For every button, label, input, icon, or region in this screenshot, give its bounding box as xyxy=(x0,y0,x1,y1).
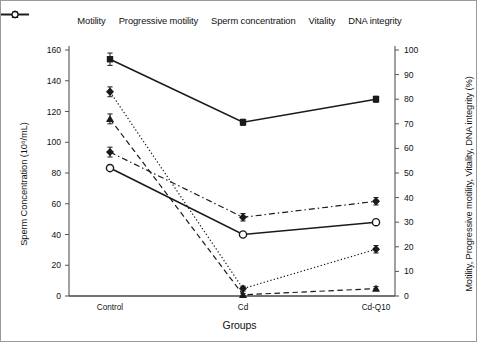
x-axis-title: Groups xyxy=(1,319,477,331)
y-right-tick-label: 30 xyxy=(404,217,414,227)
y-left-tick-label: 80 xyxy=(1,168,61,178)
x-tick-label-cd: Cd xyxy=(198,303,288,312)
legend-label-vitality: Vitality xyxy=(309,15,336,26)
y-left-tick-label: 100 xyxy=(1,137,61,147)
y-right-tick-label: 80 xyxy=(404,94,414,104)
y-right-tick-label: 60 xyxy=(404,143,414,153)
legend-label-motility: Motility xyxy=(77,15,105,26)
legend-item-dna-integrity: DNA integrity xyxy=(348,15,401,26)
data-point-progressive-motility xyxy=(106,115,114,122)
chart-legend: Motility Progressive motility Sperm conc… xyxy=(1,9,477,31)
legend-item-progressive-motility: Progressive motility xyxy=(119,15,198,26)
data-point-dna-integrity xyxy=(239,231,246,238)
y-right-tick-label: 0 xyxy=(404,291,409,301)
y-right-tick-label: 70 xyxy=(404,119,414,129)
data-point-sperm-concentration xyxy=(240,119,246,125)
data-point-dna-integrity xyxy=(372,219,379,226)
legend-item-vitality: Vitality xyxy=(309,15,336,26)
data-point-motility xyxy=(106,88,114,96)
series-line-vitality xyxy=(110,152,376,217)
data-point-sperm-concentration xyxy=(107,56,113,62)
x-tick-label-cd-q10: Cd-Q10 xyxy=(331,303,421,312)
plot-area: Sperm Concentration (10⁶/mL) Motility, P… xyxy=(1,31,477,342)
y-right-tick-label: 50 xyxy=(404,168,414,178)
y-right-tick-label: 100 xyxy=(404,45,418,55)
data-point-vitality xyxy=(106,148,114,156)
y-left-tick-label: 20 xyxy=(1,260,61,270)
data-point-sperm-concentration xyxy=(373,96,379,102)
legend-item-sperm-concentration: Sperm concentration xyxy=(211,15,296,26)
dna-integrity-legend-marker-icon xyxy=(1,9,29,20)
y-right-tick-label: 40 xyxy=(404,193,414,203)
data-point-vitality xyxy=(372,197,380,205)
legend-label-dna-integrity: DNA integrity xyxy=(348,15,401,26)
y-left-tick-label: 60 xyxy=(1,199,61,209)
y-left-tick-label: 160 xyxy=(1,45,61,55)
chart-figure: Motility Progressive motility Sperm conc… xyxy=(0,0,477,342)
y-left-tick-label: 40 xyxy=(1,230,61,240)
y-right-tick-label: 20 xyxy=(404,242,414,252)
data-point-progressive-motility xyxy=(372,285,380,292)
data-point-vitality xyxy=(239,213,247,221)
y-axis-right-title: Motility, Progressive motility, Vitality… xyxy=(464,69,474,299)
y-left-tick-label: 120 xyxy=(1,107,61,117)
y-right-tick-label: 10 xyxy=(404,266,414,276)
series-line-sperm-concentration xyxy=(110,59,376,122)
data-point-dna-integrity xyxy=(106,164,113,171)
y-left-tick-label: 140 xyxy=(1,76,61,86)
series-line-dna-integrity xyxy=(110,168,376,234)
y-left-tick-label: 0 xyxy=(1,291,61,301)
x-tick-label-control: Control xyxy=(65,303,155,312)
data-point-motility xyxy=(372,245,380,253)
legend-item-motility: Motility xyxy=(77,15,105,26)
series-line-progressive-motility xyxy=(110,119,376,295)
legend-label-progressive-motility: Progressive motility xyxy=(119,15,198,26)
legend-label-sperm-concentration: Sperm concentration xyxy=(211,15,296,26)
y-right-tick-label: 90 xyxy=(404,70,414,80)
